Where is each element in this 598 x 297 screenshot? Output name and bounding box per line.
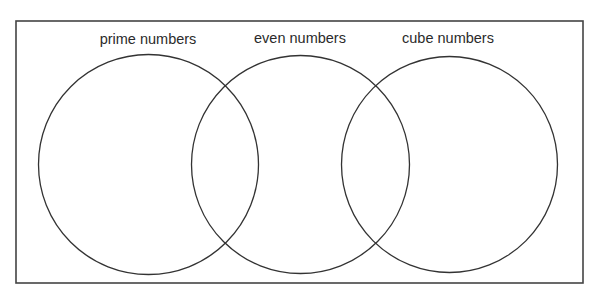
universal-set-frame <box>16 21 583 283</box>
set-label-even: even numbers <box>254 30 346 46</box>
set-label-prime: prime numbers <box>100 31 197 47</box>
set-circle-prime <box>39 55 259 275</box>
venn-diagram: prime numbers even numbers cube numbers <box>0 0 598 297</box>
set-circle-even <box>192 56 410 274</box>
set-label-cube: cube numbers <box>402 30 494 46</box>
set-circle-cube <box>342 57 558 273</box>
